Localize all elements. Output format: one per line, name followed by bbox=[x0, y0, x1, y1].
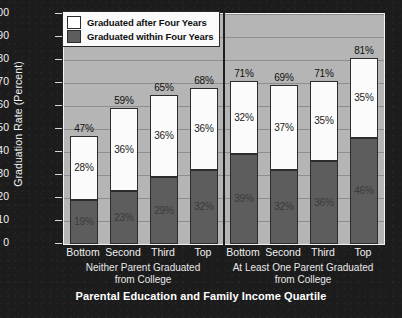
bar: 71%35%36% bbox=[310, 81, 338, 244]
legend-swatch-within-icon bbox=[67, 30, 81, 43]
y-tick-label: 30 bbox=[0, 168, 9, 179]
bar: 69%37%32% bbox=[270, 85, 298, 244]
bar: 71%32%39% bbox=[230, 81, 258, 244]
bar: 68%36%32% bbox=[190, 88, 218, 244]
y-tick-label: 20 bbox=[0, 191, 9, 202]
y-tick-label: 70 bbox=[0, 76, 9, 87]
bar-total-label: 81% bbox=[337, 45, 391, 56]
y-tick-mark bbox=[55, 151, 62, 152]
bar-total-label: 71% bbox=[297, 68, 351, 79]
y-tick-label: 40 bbox=[0, 145, 9, 156]
y-tick-label: 0 bbox=[0, 237, 9, 248]
y-tick-label: 10 bbox=[0, 214, 9, 225]
bar: 47%28%19% bbox=[70, 136, 98, 244]
legend-label: Graduated after Four Years bbox=[87, 17, 207, 28]
x-axis-title: Parental Education and Family Income Qua… bbox=[0, 290, 402, 302]
bar: 59%36%23% bbox=[110, 108, 138, 244]
plot-area: 47%28%19%59%36%23%65%36%29%68%36%32%71%3… bbox=[63, 13, 385, 245]
y-tick-label: 90 bbox=[0, 30, 9, 41]
chart-figure: Graduation Rate (Percent) 01020304050607… bbox=[0, 0, 402, 318]
bar-total-label: 59% bbox=[97, 95, 151, 106]
y-tick-label: 100 bbox=[0, 7, 9, 18]
y-tick-mark bbox=[55, 197, 62, 198]
legend-item: Graduated within Four Years bbox=[67, 29, 213, 43]
legend-swatch-after-icon bbox=[67, 16, 81, 29]
y-tick-label: 80 bbox=[0, 53, 9, 64]
bar-after-label: 32% bbox=[217, 112, 271, 123]
bar: 81%35%46% bbox=[350, 58, 378, 244]
y-tick-mark bbox=[55, 243, 62, 244]
group-label: At Least One Parent Graduatedfrom Colleg… bbox=[208, 262, 398, 286]
y-tick-mark bbox=[55, 13, 62, 14]
bar-after-label: 28% bbox=[57, 162, 111, 173]
bar-within-label: 46% bbox=[337, 185, 391, 196]
group-label-line: from College bbox=[208, 274, 398, 286]
y-tick-mark bbox=[55, 82, 62, 83]
bar-after-label: 36% bbox=[177, 123, 231, 134]
bar-within-label: 36% bbox=[297, 197, 351, 208]
x-tick-label: Top bbox=[333, 246, 393, 258]
y-tick-mark bbox=[55, 36, 62, 37]
bar: 65%36%29% bbox=[150, 95, 178, 245]
group-label-line: At Least One Parent Graduated bbox=[208, 262, 398, 274]
y-tick-label: 50 bbox=[0, 122, 9, 133]
bar-after-label: 35% bbox=[297, 115, 351, 126]
y-tick-mark bbox=[55, 174, 62, 175]
y-tick-label: 60 bbox=[0, 99, 9, 110]
legend: Graduated after Four Years Graduated wit… bbox=[62, 11, 220, 47]
y-tick-mark bbox=[55, 59, 62, 60]
y-tick-mark bbox=[55, 105, 62, 106]
legend-label: Graduated within Four Years bbox=[87, 31, 213, 42]
bar-after-label: 36% bbox=[97, 144, 151, 155]
legend-item: Graduated after Four Years bbox=[67, 15, 213, 29]
bar-after-label: 35% bbox=[337, 92, 391, 103]
y-axis-label: Graduation Rate (Percent) bbox=[12, 14, 24, 234]
bar-total-label: 47% bbox=[57, 123, 111, 134]
